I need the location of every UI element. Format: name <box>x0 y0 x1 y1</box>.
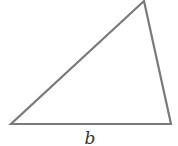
triangle-shape <box>11 1 171 124</box>
triangle-svg: b <box>0 0 178 146</box>
triangle-diagram: b <box>0 0 178 146</box>
base-label: b <box>85 128 96 146</box>
